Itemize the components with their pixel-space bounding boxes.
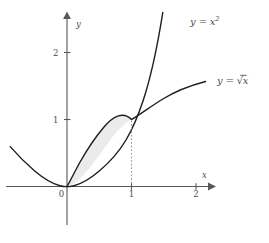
shaded-area-region: [67, 115, 132, 187]
svg-text:y =√x: y =√x: [216, 75, 249, 86]
y-axis-arrowhead: [63, 12, 71, 20]
y-tick-label-1: 1: [53, 115, 58, 125]
origin-tick-label: 0: [59, 189, 64, 199]
curve-sqrt: [67, 82, 206, 187]
sqrt-curve-label: y =√x: [216, 75, 249, 86]
parabola-label-lhs: y =: [189, 16, 207, 27]
y-axis-label: y: [75, 19, 81, 29]
sqrt-label-lhs: y =: [216, 75, 234, 86]
parabola-curve-label: y =x2: [189, 15, 220, 27]
parabola-label-exponent: 2: [214, 15, 219, 23]
y-tick-label-2: 2: [53, 48, 58, 58]
x-axis-label: x: [202, 170, 207, 180]
x-axis-arrowhead: [208, 183, 216, 191]
math-figure: 0 1 2 1 2 x y y =x2 y =√x: [0, 0, 269, 243]
sqrt-label-radicand: x: [243, 75, 249, 86]
x-tick-label-2: 2: [193, 189, 198, 199]
svg-text:y =x2: y =x2: [189, 15, 220, 27]
x-tick-label-1: 1: [129, 189, 134, 199]
